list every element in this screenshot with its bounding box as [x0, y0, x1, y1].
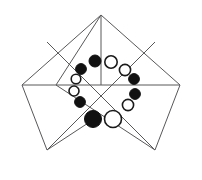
token-top-left-inner	[89, 55, 101, 67]
token-bottom-right	[105, 111, 122, 128]
token-lower-left	[75, 97, 86, 108]
token-top-right-inner	[105, 56, 117, 68]
token-lower-right	[122, 99, 133, 110]
figure-svg	[0, 0, 202, 180]
figure-canvas	[0, 0, 202, 180]
token-upper-left	[76, 64, 87, 75]
token-mid-left-upper	[71, 74, 81, 84]
token-mid-right-upper	[129, 74, 140, 85]
token-bottom-left	[85, 111, 102, 128]
token-upper-right	[119, 64, 130, 75]
token-mid-right-lower	[130, 89, 141, 100]
token-mid-left-lower	[69, 86, 79, 96]
